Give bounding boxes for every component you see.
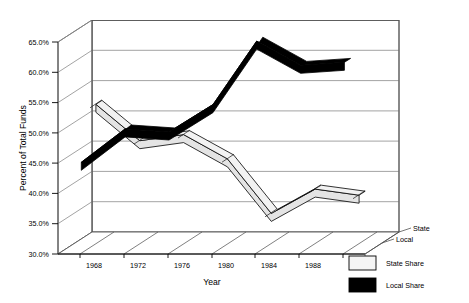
depth-tick-label-state: State [413, 224, 430, 233]
legend: State Share Local Share [349, 256, 424, 292]
x-axis-title: Year [203, 277, 221, 287]
x-tick-label-1976: 1976 [174, 261, 190, 270]
y-tick-label-65: 65.0% [29, 38, 50, 47]
plot-left-wall [58, 20, 92, 254]
y-tick-label-30: 30.0% [29, 250, 50, 259]
legend-swatch-state-share [349, 256, 376, 270]
y-tick-label-40: 40.0% [29, 189, 50, 198]
y-axis-title: Percent of Total Funds [18, 105, 28, 191]
three-d-ribbon-chart: 65.0% 60.0% 55.0% 50.0% 45.0% 40.0% 35.0… [0, 0, 469, 303]
chart-container: 65.0% 60.0% 55.0% 50.0% 45.0% 40.0% 35.0… [0, 0, 469, 303]
x-tick-label-1968: 1968 [86, 261, 102, 270]
legend-swatch-local-share [349, 278, 376, 292]
x-tick-label-1988: 1988 [305, 261, 321, 270]
x-tick-label-1980: 1980 [218, 261, 234, 270]
top-frame-line [92, 20, 399, 21]
y-tick-label-60: 60.0% [29, 68, 50, 77]
x-tick-label-1984: 1984 [261, 261, 277, 270]
y-tick-label-45: 45.0% [29, 159, 50, 168]
y-tick-label-50: 50.0% [29, 129, 50, 138]
x-axis: 1968 1972 1976 1980 1984 1988 1992 [58, 254, 365, 270]
top-clip-mask [0, 0, 469, 20]
plot-floor [58, 232, 399, 254]
depth-tick-label-local: Local [396, 235, 414, 244]
y-tick-label-55: 55.0% [29, 98, 50, 107]
y-axis: 65.0% 60.0% 55.0% 50.0% 45.0% 40.0% 35.0… [29, 38, 58, 259]
y-tick-label-35: 35.0% [29, 219, 50, 228]
x-tick-label-1972: 1972 [130, 261, 146, 270]
legend-label-local-share: Local Share [386, 281, 424, 290]
legend-label-state-share: State Share [386, 259, 424, 268]
